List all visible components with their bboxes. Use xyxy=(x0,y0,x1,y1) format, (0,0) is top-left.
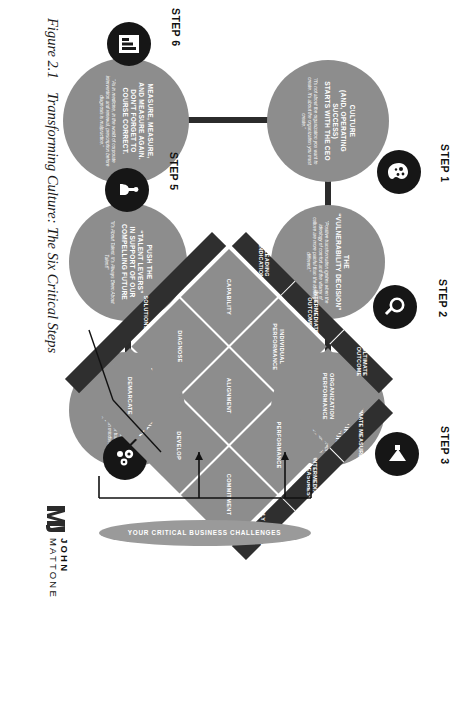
step-5-label: STEP 5 xyxy=(168,152,180,190)
axis-left-label-0: ULTIMATE OUTCOME xyxy=(355,347,368,377)
figure-caption-text: Transforming Culture: The Six Critical S… xyxy=(45,92,61,353)
step-6-title: MEASURE, MEASURE,AND MEASURE AGAIN.DON'T… xyxy=(121,82,154,159)
step-3-label: STEP 3 xyxy=(439,426,451,464)
matrix-cell-label-2: COMMITMENT xyxy=(226,474,233,516)
figure-caption: Figure 2.1 Transforming Culture: The Six… xyxy=(44,18,61,488)
matrix-cell-label-8: DEMARCATE xyxy=(127,377,134,415)
matrix-cells: ORGANIZATION PERFORMANCE PERFORMANCE COM… xyxy=(82,249,376,543)
matrix-cell-label-6: CAPABILITY xyxy=(226,279,233,315)
matrix-cell-label-0: ORGANIZATION PERFORMANCE xyxy=(321,362,334,430)
magnifier-icon xyxy=(373,285,417,329)
figure-page: CULTURE(AND, OPERATINGSUCCESS)STARTS WIT… xyxy=(0,0,461,701)
logo-wordmark: JOHN MATTONE xyxy=(48,538,70,599)
matrix-cell-label-7: DIAGNOSE xyxy=(176,330,183,362)
jm-monogram-icon xyxy=(43,505,69,535)
step-1-subtitle: "It's not about the organization you wan… xyxy=(300,73,317,170)
matrix-cell-label-1: PERFORMANCE xyxy=(275,422,282,469)
matrix-cell-label-3: INDIVIDUAL PERFORMANCE xyxy=(272,313,285,381)
figure-number: Figure 2.1 xyxy=(45,18,61,79)
step-6-label: STEP 6 xyxy=(170,8,182,46)
ceo-head-megaphone-icon xyxy=(377,150,421,194)
rotated-figure-frame: CULTURE(AND, OPERATINGSUCCESS)STARTS WIT… xyxy=(0,0,461,701)
critical-business-challenges-oval: YOUR CRITICAL BUSINESS CHALLENGES xyxy=(99,520,311,546)
bar-chart-clipboard-icon xyxy=(107,22,151,66)
hand-lever-icon xyxy=(105,168,149,212)
step-1-label: STEP 1 xyxy=(439,144,451,182)
step-2-label: STEP 2 xyxy=(437,279,449,317)
performance-matrix: ULTIMATE MEASURES INTERMEDIATE MEASURES … xyxy=(79,246,379,546)
axis-left-label-2: LEADING INDICATIONS xyxy=(257,244,270,282)
step-1-title: CULTURE(AND, OPERATINGSUCCESS)STARTS WIT… xyxy=(323,81,356,161)
solutions-label: SOLUTIONS xyxy=(142,295,148,329)
matrix-cell-label-5: DEVELOP xyxy=(176,431,183,460)
john-mattone-logo: JOHN MATTONE xyxy=(35,505,75,625)
step-1-circle[interactable]: CULTURE(AND, OPERATINGSUCCESS)STARTS WIT… xyxy=(267,60,389,182)
step-6-subtitle: "As in medicine, in the world of corpora… xyxy=(98,71,115,171)
critical-business-challenges-label: YOUR CRITICAL BUSINESS CHALLENGES xyxy=(128,530,281,537)
logo-line-2: MATTONE xyxy=(48,538,59,599)
figure-canvas: CULTURE(AND, OPERATINGSUCCESS)STARTS WIT… xyxy=(0,0,461,701)
logo-line-1: JOHN xyxy=(59,538,70,599)
matrix-cell-label-4: ALIGNMENT xyxy=(226,378,233,414)
